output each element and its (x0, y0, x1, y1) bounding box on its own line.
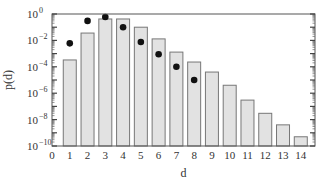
y-tick-label: 10 (27, 34, 39, 46)
x-tick-label: 0 (49, 149, 55, 161)
y-tick-label: 10 (27, 140, 39, 152)
data-point (66, 40, 73, 47)
x-tick-label: 5 (138, 149, 144, 161)
bar (81, 33, 94, 146)
data-point (173, 64, 180, 71)
chart: 10010−210−410−610−810−10 012345678910111… (0, 0, 325, 185)
x-tick-label: 1 (67, 149, 73, 161)
y-tick-label: 10 (27, 87, 39, 99)
x-tick-label: 9 (209, 149, 215, 161)
x-tick-label: 3 (103, 149, 109, 161)
data-point (155, 51, 162, 58)
data-point (138, 39, 145, 46)
bar (223, 85, 236, 146)
x-tick-label: 2 (85, 149, 91, 161)
x-tick-label: 12 (260, 149, 271, 161)
x-tick-label: 13 (278, 149, 290, 161)
data-point (84, 18, 91, 25)
data-point (191, 77, 198, 84)
y-tick-exponent: −8 (39, 112, 48, 121)
data-point (102, 14, 109, 21)
x-tick-label: 4 (120, 149, 126, 161)
y-tick-label: 10 (27, 61, 39, 73)
bar (63, 60, 76, 146)
x-tick-label: 11 (242, 149, 253, 161)
data-point (120, 24, 127, 31)
y-tick-label: 10 (27, 114, 39, 126)
x-tick-label: 14 (295, 149, 307, 161)
x-axis-label: d (181, 166, 187, 180)
x-tick-label: 8 (191, 149, 197, 161)
bar (241, 100, 254, 146)
y-tick-exponent: −4 (39, 59, 48, 68)
y-tick-label: 10 (27, 8, 39, 20)
bar (205, 72, 218, 146)
bar (277, 125, 290, 146)
bar (294, 137, 307, 146)
x-tick-label: 6 (156, 149, 162, 161)
x-tick-label: 7 (174, 149, 180, 161)
y-tick-exponent: −6 (39, 85, 48, 94)
bar (188, 62, 201, 146)
y-tick-exponent: −2 (39, 32, 48, 41)
x-tick-label: 10 (224, 149, 236, 161)
bar (259, 113, 272, 146)
y-tick-exponent: 0 (39, 6, 43, 15)
bar (99, 19, 112, 146)
x-axis: 01234567891011121314 (49, 149, 307, 161)
bar-series (63, 19, 307, 146)
y-axis-label: p(d) (1, 70, 15, 90)
bar (117, 19, 130, 146)
y-tick-exponent: −10 (39, 138, 52, 147)
